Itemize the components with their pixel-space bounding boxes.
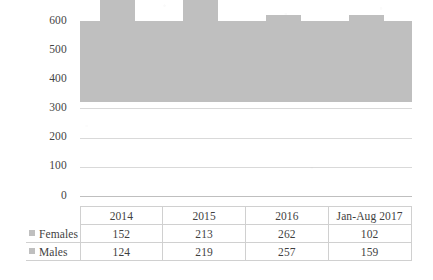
cell-females-jan-aug-2017: 102 [328, 225, 411, 243]
table-row-females: Females 152 213 262 102 [26, 225, 411, 243]
y-axis-tick-100: 100 [7, 160, 67, 172]
bar-2016 [266, 15, 301, 91]
data-table: 2014 2015 2016 Jan-Aug 2017 Females 152 … [26, 206, 412, 261]
legend-label-males: Males [39, 246, 68, 258]
table-row-header: 2014 2015 2016 Jan-Aug 2017 [26, 207, 411, 225]
gridline-100 [80, 167, 412, 168]
legend-item-females: Females [26, 225, 80, 243]
cell-females-2016: 262 [246, 225, 329, 243]
y-axis-tick-0: 0 [7, 190, 67, 202]
cell-males-2015: 219 [163, 243, 246, 261]
y-axis-tick-400: 400 [7, 73, 67, 85]
cell-males-2016: 257 [246, 243, 329, 261]
table-header-2015: 2015 [163, 207, 246, 225]
stacked-bar-chart: 600 500 400 300 200 100 0 2014 2015 [0, 0, 433, 280]
legend-label-females: Females [39, 228, 78, 240]
y-axis-tick-500: 500 [7, 44, 67, 56]
gridline-200 [80, 138, 412, 139]
gridline-300 [80, 108, 412, 109]
bar-2014 [100, 0, 135, 92]
cell-males-2014: 124 [80, 243, 163, 261]
table-header-2014: 2014 [80, 207, 163, 225]
y-axis-tick-300: 300 [7, 102, 67, 114]
square-swatch-icon [29, 248, 35, 254]
bar-2015 [183, 0, 218, 92]
cell-females-2014: 152 [80, 225, 163, 243]
y-axis-tick-200: 200 [7, 131, 67, 143]
square-swatch-icon [29, 230, 35, 236]
table-header-2016: 2016 [246, 207, 329, 225]
x-axis-line [80, 196, 412, 197]
table-header-jan-aug-2017: Jan-Aug 2017 [328, 207, 411, 225]
bar-series-group [80, 21, 412, 102]
table-row-males: Males 124 219 257 159 [26, 243, 411, 261]
bar-jan-aug-2017 [349, 15, 384, 91]
cell-females-2015: 213 [163, 225, 246, 243]
cell-males-jan-aug-2017: 159 [328, 243, 411, 261]
legend-item-males: Males [26, 243, 80, 261]
y-axis-tick-600: 600 [7, 15, 67, 27]
table-corner-cell [26, 207, 80, 225]
